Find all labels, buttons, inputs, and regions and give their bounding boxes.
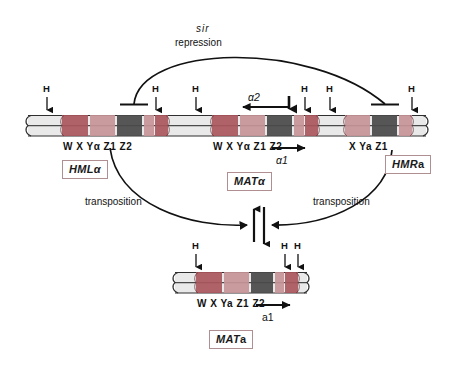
locus-box-hml-alpha-italic: HML [69, 163, 94, 175]
locus-box-mat-alpha-italic: MAT [234, 175, 258, 187]
hml-segments [62, 115, 168, 136]
a1-label: a1 [262, 312, 274, 323]
hml-segment-labels: W X Yα Z1 Z2 [63, 142, 132, 152]
h-label-9: H [294, 241, 301, 251]
h-label-2: H [152, 84, 159, 94]
h-label-3: H [192, 84, 199, 94]
locus-box-mat-a-italic: MAT [216, 333, 240, 345]
alpha2-label: α2 [248, 92, 260, 103]
h-label-6: H [408, 84, 415, 94]
h-label-1: H [43, 84, 50, 94]
h-label-7: H [192, 241, 199, 251]
h-marker-arrows-bottom [196, 254, 298, 267]
transposition-arrow-right [272, 150, 392, 225]
transposition-label-left: transposition [85, 197, 142, 207]
hmr-segment-labels: X Ya Z1 [349, 142, 388, 152]
mat-a-segments [196, 272, 298, 293]
mat-a-segment-labels: W X Ya Z1 Z2 [197, 299, 265, 309]
mat-alpha-segments [212, 115, 318, 136]
sir-label: sir [196, 24, 210, 34]
equilibrium-arrows [254, 207, 264, 244]
locus-box-hmr-a-italic: HMR [392, 158, 418, 170]
locus-box-hmr-a-suffix: a [418, 158, 424, 170]
locus-box-mat-a: MATa [209, 330, 253, 349]
top-chromosome [26, 115, 428, 136]
locus-box-mat-alpha: MATα [227, 172, 272, 191]
locus-box-mat-alpha-suffix: α [258, 175, 265, 187]
locus-box-hmr-a: HMRa [385, 155, 431, 174]
h-label-5: H [326, 84, 333, 94]
h-marker-arrows-top [47, 97, 412, 110]
bottom-chromosome [173, 272, 309, 293]
locus-box-hml-alpha: HMLα [62, 160, 108, 179]
alpha1-label: α1 [276, 155, 288, 166]
locus-box-hml-alpha-suffix: α [94, 163, 101, 175]
diagram-graphics [0, 0, 449, 372]
h-label-4: H [301, 84, 308, 94]
transposition-label-right: transposition [313, 197, 370, 207]
locus-box-mat-a-suffix: a [240, 333, 246, 345]
repression-label: repression [175, 38, 222, 48]
hmr-segments [345, 115, 412, 136]
figure-canvas: sir repression transposition transpositi… [0, 0, 449, 372]
mat-alpha-segment-labels: W X Yα Z1 Z2 [213, 142, 282, 152]
h-label-8: H [281, 241, 288, 251]
